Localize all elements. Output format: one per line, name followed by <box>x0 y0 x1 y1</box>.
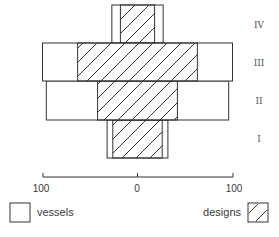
axis-label-left: 100 <box>33 183 50 194</box>
legend-swatch-designs <box>248 203 268 222</box>
legend-label-designs: designs <box>203 206 241 218</box>
legend-swatch-vessels <box>10 203 30 222</box>
bars-group <box>43 5 233 158</box>
axis-label-right: 100 <box>226 183 243 194</box>
level-label-i: I <box>257 134 261 144</box>
scale-axis <box>43 173 233 177</box>
designs-bar-iv <box>120 5 154 43</box>
designs-bar-i <box>113 120 162 158</box>
chart: IV III II I 100 0 100 vessels designs <box>0 0 279 237</box>
designs-bar-iii <box>78 43 198 81</box>
designs-bar-ii <box>98 81 178 120</box>
level-label-ii: II <box>255 96 263 106</box>
level-label-iv: IV <box>254 20 265 30</box>
axis-label-center: 0 <box>134 183 140 194</box>
legend-label-vessels: vessels <box>37 206 74 218</box>
level-label-iii: III <box>254 58 265 68</box>
